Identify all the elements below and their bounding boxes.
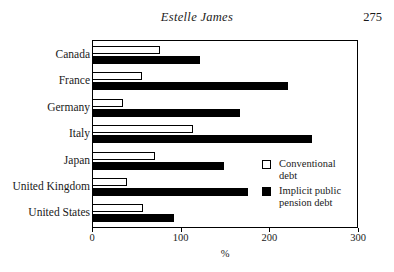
legend-item-implicit: Implicit public pension debt [262, 185, 356, 209]
bar-implicit-pension-debt [92, 82, 288, 90]
bar-conventional-debt [92, 125, 193, 133]
bar-implicit-pension-debt [92, 162, 224, 170]
bar-implicit-pension-debt [92, 135, 312, 143]
x-tick-label-0: 0 [72, 232, 112, 243]
bar-implicit-pension-debt [92, 214, 174, 222]
legend-item-conventional: Conventional debt [262, 158, 356, 182]
bar-conventional-debt [92, 72, 142, 80]
bar-conventional-debt [92, 99, 123, 107]
x-tick-label-100: 100 [161, 232, 201, 243]
bar-implicit-pension-debt [92, 109, 240, 117]
bar-conventional-debt [92, 204, 143, 212]
open-square-icon [262, 160, 271, 169]
category-label-italy: Italy [0, 127, 90, 139]
category-label-japan: Japan [0, 154, 90, 166]
x-axis-title: % [92, 248, 358, 259]
legend-label-conventional: Conventional debt [262, 158, 356, 182]
legend-label-implicit: Implicit public pension debt [262, 185, 356, 209]
bar-conventional-debt [92, 46, 160, 54]
category-label-canada: Canada [0, 48, 90, 60]
category-label-united-kingdom: United Kingdom [0, 180, 90, 192]
category-label-france: France [0, 74, 90, 86]
x-tick-label-200: 200 [249, 232, 289, 243]
chart-legend: Conventional debt Implicit public pensio… [262, 158, 356, 212]
bar-implicit-pension-debt [92, 56, 200, 64]
bar-conventional-debt [92, 152, 155, 160]
x-tick-label-300: 300 [338, 232, 378, 243]
bar-implicit-pension-debt [92, 188, 248, 196]
bar-conventional-debt [92, 178, 127, 186]
category-label-united-states: United States [0, 206, 90, 218]
bar-chart-figure: CanadaFranceGermanyItalyJapanUnited King… [0, 0, 394, 272]
category-label-germany: Germany [0, 101, 90, 113]
filled-square-icon [262, 187, 271, 196]
